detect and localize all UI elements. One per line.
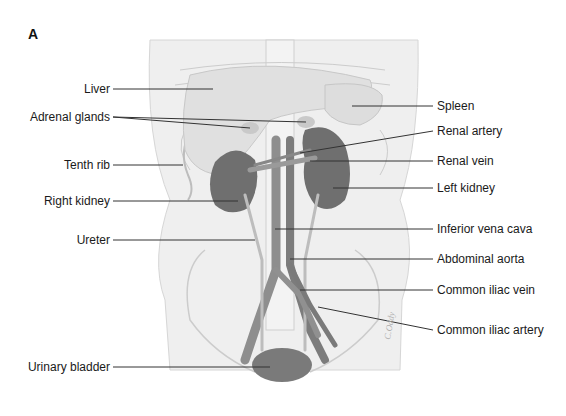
urinary-bladder — [252, 348, 312, 382]
label-inferior-vena-cava: Inferior vena cava — [437, 222, 532, 236]
label-abdominal-aorta: Abdominal aorta — [437, 252, 524, 266]
label-left-kidney: Left kidney — [437, 181, 495, 195]
label-urinary-bladder: Urinary bladder — [28, 360, 110, 374]
label-ureter: Ureter — [77, 233, 110, 247]
label-right-kidney: Right kidney — [44, 194, 110, 208]
label-liver: Liver — [84, 82, 110, 96]
label-tenth-rib: Tenth rib — [64, 158, 110, 172]
label-common-iliac-vein: Common iliac vein — [437, 283, 535, 297]
label-spleen: Spleen — [437, 99, 474, 113]
anatomical-illustration: C.Oddy — [0, 0, 566, 416]
label-adrenal-glands: Adrenal glands — [30, 110, 110, 124]
label-renal-artery: Renal artery — [437, 124, 502, 138]
label-common-iliac-artery: Common iliac artery — [437, 323, 544, 337]
label-renal-vein: Renal vein — [437, 154, 494, 168]
